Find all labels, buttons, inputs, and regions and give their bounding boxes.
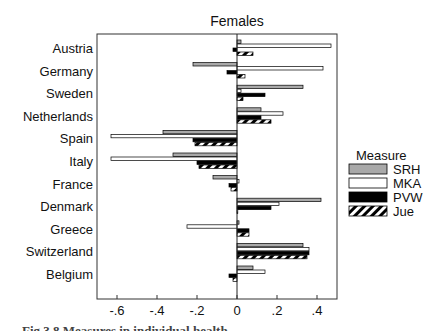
legend-label: Jue <box>393 204 414 219</box>
bar-srh <box>237 243 303 246</box>
bar-mka <box>237 247 309 250</box>
legend-swatch-mka <box>349 178 387 188</box>
bars-group <box>111 40 331 281</box>
bar-pvw <box>233 48 237 51</box>
bar-jue <box>233 278 237 281</box>
bar-mka <box>237 89 241 92</box>
bar-jue <box>237 97 243 100</box>
category-label: Germany <box>40 64 94 79</box>
bar-srh <box>237 266 253 269</box>
bar-jue <box>199 165 237 168</box>
bar-pvw <box>237 251 309 254</box>
x-axis: -.6-.4-.20.2.4 <box>109 295 322 318</box>
bar-srh <box>237 40 241 43</box>
x-tick-label: -.6 <box>109 303 124 318</box>
bar-srh <box>213 176 237 179</box>
category-label: Spain <box>60 131 93 146</box>
legend: MeasureSRHMKAPVWJue <box>349 148 423 219</box>
bar-jue <box>195 142 237 145</box>
bar-mka <box>237 202 279 205</box>
category-label: Belgium <box>46 267 93 282</box>
bar-jue <box>237 52 253 55</box>
bar-pvw <box>237 206 271 209</box>
bar-jue <box>237 120 271 123</box>
category-label: Denmark <box>40 199 93 214</box>
bar-pvw <box>229 184 237 187</box>
bar-mka <box>187 225 237 228</box>
bar-srh <box>163 130 237 133</box>
category-label: Italy <box>69 154 93 169</box>
x-tick-label: .4 <box>312 303 323 318</box>
bar-mka <box>237 44 331 47</box>
legend-label: MKA <box>393 176 422 191</box>
category-label: France <box>53 177 93 192</box>
bar-srh <box>193 63 237 66</box>
bar-srh <box>237 198 321 201</box>
legend-label: SRH <box>393 162 420 177</box>
category-label: Sweden <box>46 86 93 101</box>
bar-pvw <box>227 71 237 74</box>
x-tick-label: -.2 <box>189 303 204 318</box>
bar-mka <box>237 67 323 70</box>
bar-pvw <box>197 161 237 164</box>
bar-mka <box>237 270 265 273</box>
bar-pvw <box>237 93 265 96</box>
chart-title: Females <box>210 13 264 29</box>
category-label: Austria <box>53 41 94 56</box>
category-label: Greece <box>50 222 93 237</box>
legend-swatch-srh <box>349 164 387 174</box>
bar-mka <box>111 134 237 137</box>
bar-jue <box>231 188 237 191</box>
bar-pvw <box>229 274 237 277</box>
bar-srh <box>237 108 261 111</box>
bar-srh <box>173 153 237 156</box>
figure-caption: Fig 3.8 Measures in individual health ..… <box>22 323 241 331</box>
category-labels: AustriaGermanySwedenNetherlandsSpainItal… <box>23 41 94 282</box>
bar-mka <box>111 157 237 160</box>
legend-swatch-jue <box>349 206 387 216</box>
bar-jue <box>237 255 307 258</box>
bar-mka <box>237 112 283 115</box>
legend-title: Measure <box>356 148 407 163</box>
legend-swatch-pvw <box>349 192 387 202</box>
category-label: Switzerland <box>26 244 93 259</box>
legend-label: PVW <box>393 190 423 205</box>
bar-chart: Females AustriaGermanySwedenNetherlandsS… <box>0 0 442 331</box>
category-label: Netherlands <box>23 109 94 124</box>
x-tick-label: .2 <box>272 303 283 318</box>
bar-pvw <box>237 229 249 232</box>
x-tick-label: 0 <box>233 303 240 318</box>
bar-pvw <box>237 116 261 119</box>
bar-jue <box>237 233 249 236</box>
bar-pvw <box>193 138 237 141</box>
x-tick-label: -.4 <box>149 303 164 318</box>
bar-srh <box>237 85 303 88</box>
bar-jue <box>237 75 245 78</box>
